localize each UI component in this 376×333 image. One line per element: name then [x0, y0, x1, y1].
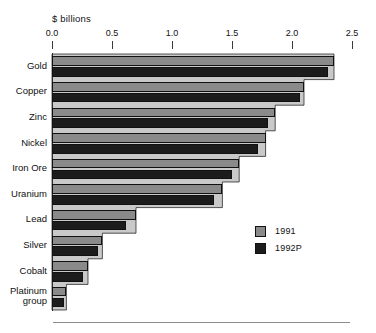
bar-zinc-1992p [52, 118, 268, 128]
legend-label-1991: 1991 [275, 226, 296, 236]
bar-cobalt-1991 [52, 261, 88, 271]
mineral-production-bar-chart: $ billions 0.00.51.01.52.02.5 GoldCopper… [0, 0, 376, 333]
category-label-zinc: Zinc [0, 112, 47, 122]
category-label-uranium: Uranium [0, 189, 47, 199]
category-label-cobalt: Cobalt [0, 266, 47, 276]
category-label-copper: Copper [0, 86, 47, 96]
bar-lead-1991 [52, 210, 136, 220]
bar-uranium-1991 [52, 184, 222, 194]
legend-swatch-1991 [255, 226, 266, 237]
bar-platinum-group-1992p [52, 298, 64, 308]
category-label-platinum-group: Platinum group [0, 286, 47, 306]
bars-layer [0, 0, 376, 333]
legend-item-1991: 1991 [255, 224, 302, 238]
category-label-silver: Silver [0, 240, 47, 250]
legend-label-1992p: 1992P [275, 243, 302, 253]
bar-gold-1991 [52, 56, 334, 66]
bar-lead-1992p [52, 221, 126, 231]
bar-platinum-group-1991 [52, 287, 66, 297]
bottom-divider-rule [53, 322, 350, 323]
bar-silver-1991 [52, 236, 102, 246]
category-label-gold: Gold [0, 61, 47, 71]
bar-copper-1991 [52, 82, 304, 92]
bar-silver-1992p [52, 246, 98, 256]
bar-copper-1992p [52, 93, 300, 103]
category-label-nickel: Nickel [0, 138, 47, 148]
legend-swatch-1992p [255, 243, 266, 254]
bar-zinc-1991 [52, 108, 275, 118]
legend-item-1992p: 1992P [255, 241, 302, 255]
bar-nickel-1991 [52, 133, 266, 143]
chart-legend: 1991 1992P [255, 224, 302, 258]
bar-gold-1992p [52, 67, 328, 77]
bar-cobalt-1992p [52, 272, 83, 282]
bar-uranium-1992p [52, 195, 214, 205]
bar-iron-ore-1992p [52, 170, 232, 180]
bar-iron-ore-1991 [52, 159, 239, 169]
category-label-iron-ore: Iron Ore [0, 163, 47, 173]
category-label-lead: Lead [0, 214, 47, 224]
bar-nickel-1992p [52, 144, 258, 154]
